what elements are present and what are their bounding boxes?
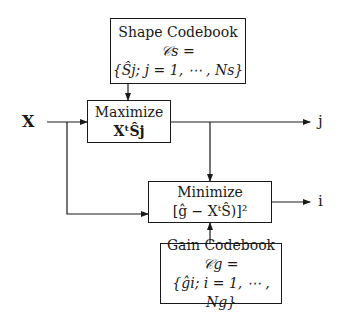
shape-codebook-box: Shape Codebook 𝒞s = {Ŝj; j = 1, ⋯ , Ns} [110, 18, 246, 84]
gain-codebook-title: Gain Codebook [167, 236, 275, 255]
output-i-label: i [318, 192, 323, 210]
shape-codebook-set-name: 𝒞s = [161, 42, 194, 61]
gain-codebook-box: Gain Codebook 𝒞g = {ĝi; i = 1, ⋯ , Ng} [160, 243, 282, 304]
minimize-expression: [ĝ − XᵗŜ)]² [173, 202, 248, 221]
minimize-title: Minimize [177, 183, 243, 202]
maximize-title: Maximize [95, 103, 163, 122]
input-x-label: X [22, 112, 34, 131]
gain-codebook-set-def: {ĝi; i = 1, ⋯ , Ng} [161, 274, 281, 312]
shape-codebook-set-def: {Ŝj; j = 1, ⋯ , Ns} [113, 61, 243, 80]
shape-codebook-title: Shape Codebook [118, 23, 237, 42]
maximize-box: Maximize XᵗŜj [87, 100, 171, 143]
gain-codebook-set-name: 𝒞g = [203, 255, 238, 274]
maximize-expression: XᵗŜj [113, 122, 144, 141]
output-j-label: j [318, 112, 323, 130]
minimize-box: Minimize [ĝ − XᵗŜ)]² [148, 181, 272, 223]
